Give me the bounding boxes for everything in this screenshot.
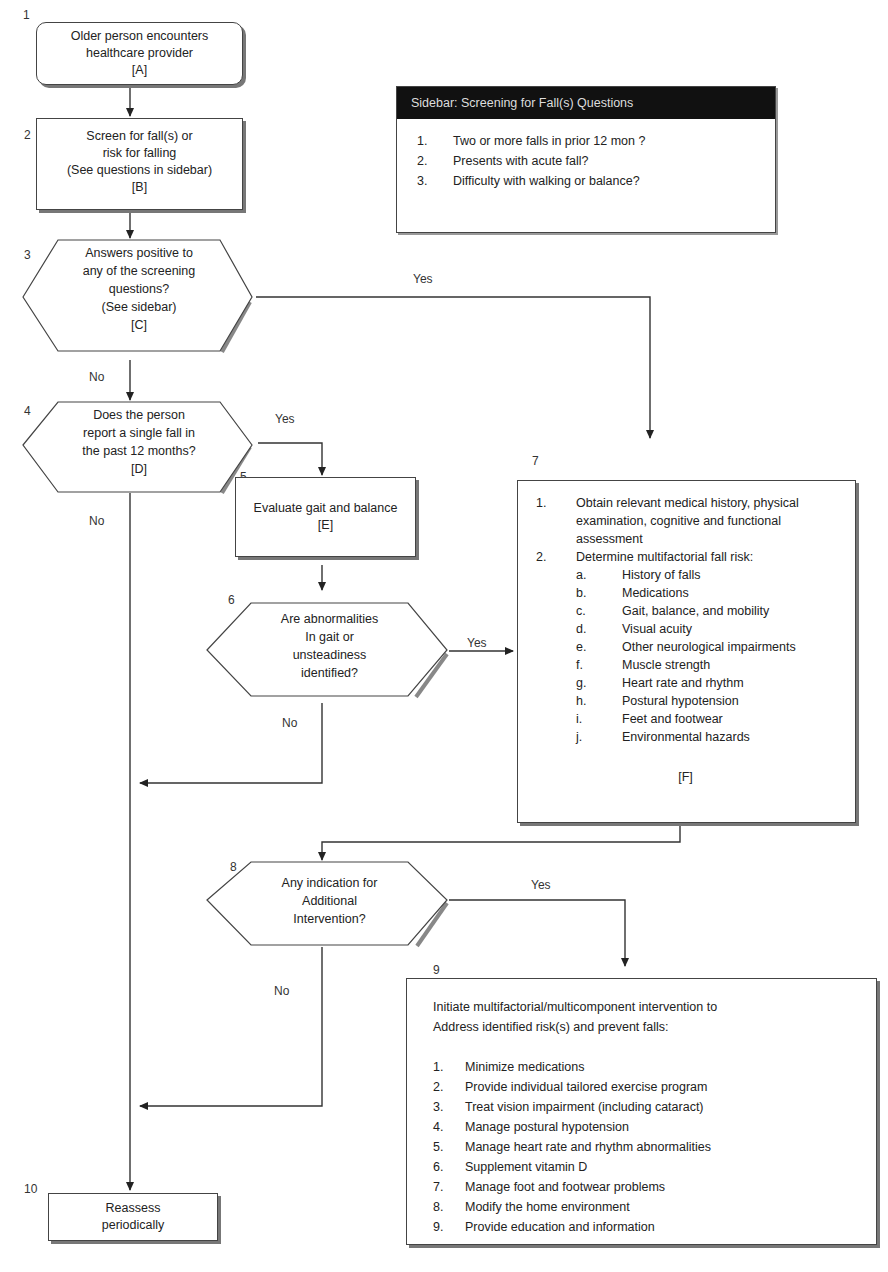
assessment-item: 2. Determine multifactorial fall risk: — [536, 548, 845, 566]
node-2-tag: [B] — [37, 179, 242, 196]
node-7-tag: [F] — [536, 770, 845, 784]
list-marker: i. — [576, 710, 622, 728]
list-marker: 2. — [433, 1077, 465, 1097]
reassess-node: Reassess periodically — [48, 1193, 218, 1241]
sidebar-question: 3.Difficulty with walking or balance? — [417, 171, 775, 191]
edge-label-yes-6: Yes — [467, 636, 487, 650]
list-marker: g. — [576, 674, 622, 692]
list-marker: 6. — [433, 1157, 465, 1177]
list-text: Treat vision impairment (including catar… — [465, 1097, 704, 1117]
intervention-intro: Address identified risk(s) and prevent f… — [433, 1017, 866, 1037]
intervention-item: 8.Modify the home environment — [433, 1197, 866, 1217]
list-marker: j. — [576, 728, 622, 746]
list-marker: 4. — [433, 1117, 465, 1137]
list-marker: 8. — [433, 1197, 465, 1217]
intervention-item: 7.Manage foot and footwear problems — [433, 1177, 866, 1197]
list-marker: 9. — [433, 1217, 465, 1237]
decision-3-line: any of the screening — [58, 262, 220, 280]
node-10-line: periodically — [49, 1217, 217, 1234]
list-text: Difficulty with walking or balance? — [453, 171, 640, 191]
decision-4-tag: [D] — [58, 460, 220, 478]
intervention-item: 2.Provide individual tailored exercise p… — [433, 1077, 866, 1097]
intervention-item: 5.Manage heart rate and rhythm abnormali… — [433, 1137, 866, 1157]
list-marker: 1. — [417, 131, 453, 151]
assessment-item: 1. Obtain relevant medical history, phys… — [536, 494, 845, 548]
node-1-line: healthcare provider — [37, 45, 242, 62]
decision-8-line: Any indication for — [251, 874, 408, 892]
list-marker: h. — [576, 692, 622, 710]
sidebar-questions: 1.Two or more falls in prior 12 mon ? 2.… — [397, 119, 775, 191]
start-node: Older person encounters healthcare provi… — [36, 22, 243, 85]
list-marker: 2. — [536, 548, 576, 566]
list-text: Medications — [622, 584, 689, 602]
edge-label-yes-8: Yes — [531, 878, 551, 892]
risk-factor-list: a.History of falls b.Medications c.Gait,… — [536, 566, 845, 746]
node-1-line: Older person encounters — [37, 28, 242, 45]
decision-8-text: Any indication for Additional Interventi… — [251, 874, 408, 928]
list-text: History of falls — [622, 566, 701, 584]
decision-3-tag: [C] — [58, 316, 220, 334]
list-marker: d. — [576, 620, 622, 638]
step-number-6: 6 — [228, 593, 235, 607]
list-marker: 7. — [433, 1177, 465, 1197]
decision-3-line: questions? — [58, 280, 220, 298]
decision-6-line: In gait or — [251, 628, 408, 646]
step-number-8: 8 — [230, 860, 237, 874]
node-1-tag: [A] — [37, 62, 242, 79]
list-text: Postural hypotension — [622, 692, 739, 710]
step-number-7: 7 — [532, 454, 539, 468]
list-text: Provide individual tailored exercise pro… — [465, 1077, 707, 1097]
intervention-item: 4.Manage postural hypotension — [433, 1117, 866, 1137]
decision-6-text: Are abnormalities In gait or unsteadines… — [251, 610, 408, 682]
decision-6-line: Are abnormalities — [251, 610, 408, 628]
step-number-3: 3 — [24, 248, 31, 262]
decision-4-line: Does the person — [58, 406, 220, 424]
intervention-item: 3.Treat vision impairment (including cat… — [433, 1097, 866, 1117]
screening-sidebar: Sidebar: Screening for Fall(s) Questions… — [396, 86, 776, 233]
list-marker: 1. — [536, 494, 576, 548]
list-marker: e. — [576, 638, 622, 656]
decision-4-text: Does the person report a single fall in … — [58, 406, 220, 478]
risk-factor-item: i.Feet and footwear — [576, 710, 845, 728]
decision-8-line: Intervention? — [251, 910, 408, 928]
screen-node: Screen for fall(s) or risk for falling (… — [36, 118, 243, 210]
list-text: Muscle strength — [622, 656, 710, 674]
node-2-line: (See questions in sidebar) — [37, 162, 242, 179]
decision-3-line: (See sidebar) — [58, 298, 220, 316]
list-text: Feet and footwear — [622, 710, 723, 728]
list-text: Manage heart rate and rhythm abnormaliti… — [465, 1137, 711, 1157]
decision-3-text: Answers positive to any of the screening… — [58, 244, 220, 334]
step-number-4: 4 — [24, 404, 31, 418]
intervention-item: 1.Minimize medications — [433, 1057, 866, 1077]
list-text: Minimize medications — [465, 1057, 584, 1077]
list-marker: 1. — [433, 1057, 465, 1077]
risk-factor-item: a.History of falls — [576, 566, 845, 584]
risk-factor-item: d.Visual acuity — [576, 620, 845, 638]
list-marker: 5. — [433, 1137, 465, 1157]
node-2-line: risk for falling — [37, 145, 242, 162]
edge-label-no-3: No — [89, 370, 104, 384]
list-text: Visual acuity — [622, 620, 692, 638]
list-text: Modify the home environment — [465, 1197, 630, 1217]
assessment-node: 1. Obtain relevant medical history, phys… — [517, 480, 856, 823]
list-text: Supplement vitamin D — [465, 1157, 587, 1177]
risk-factor-item: e.Other neurological impairments — [576, 638, 845, 656]
risk-factor-item: c.Gait, balance, and mobility — [576, 602, 845, 620]
list-marker: f. — [576, 656, 622, 674]
intervention-item: 6.Supplement vitamin D — [433, 1157, 866, 1177]
list-text: Other neurological impairments — [622, 638, 796, 656]
decision-6-line: unsteadiness — [251, 646, 408, 664]
list-text: Manage foot and footwear problems — [465, 1177, 665, 1197]
sidebar-question: 2.Presents with acute fall? — [417, 151, 775, 171]
decision-4-line: the past 12 months? — [58, 442, 220, 460]
intervention-intro: Initiate multifactorial/multicomponent i… — [433, 997, 866, 1017]
list-marker: 3. — [417, 171, 453, 191]
decision-3-line: Answers positive to — [58, 244, 220, 262]
node-5-line: Evaluate gait and balance — [236, 500, 415, 517]
list-marker: c. — [576, 602, 622, 620]
step-number-9: 9 — [433, 963, 440, 977]
risk-factor-item: g.Heart rate and rhythm — [576, 674, 845, 692]
evaluate-gait-node: Evaluate gait and balance [E] — [235, 477, 416, 557]
list-text: Determine multifactorial fall risk: — [576, 548, 753, 566]
list-text: Heart rate and rhythm — [622, 674, 744, 692]
